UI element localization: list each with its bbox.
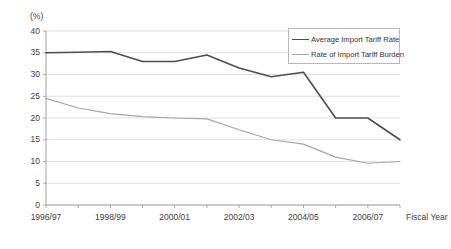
y-tick-label: 40	[18, 27, 40, 36]
legend-item-rate-of-import-tariff-burden: Rate of Import Tariff Burden	[292, 47, 404, 61]
legend-swatch-light	[292, 54, 309, 55]
legend-item-average-import-tariff-rate: Average Import Tariff Rate	[292, 32, 399, 46]
series-lines	[46, 51, 400, 163]
y-tick-label: 20	[18, 114, 40, 123]
x-tick-label: 2006/07	[344, 213, 392, 222]
y-tick-label: 30	[18, 70, 40, 79]
x-tick-label: 1998/99	[86, 213, 134, 222]
legend-swatch-dark	[292, 39, 309, 40]
y-tick-label: 5	[18, 179, 40, 188]
y-tick-label: 10	[18, 157, 40, 166]
x-axis-title: Fiscal Year	[406, 213, 448, 222]
chart-legend: Average Import Tariff Rate Rate of Impor…	[288, 28, 400, 64]
legend-label-rate-of-import-tariff-burden: Rate of Import Tariff Burden	[311, 50, 404, 59]
y-tick-label: 15	[18, 135, 40, 144]
x-tick-label: 1996/97	[22, 213, 70, 222]
legend-label-average-import-tariff-rate: Average Import Tariff Rate	[311, 35, 399, 44]
x-tick-label: 2002/03	[215, 213, 263, 222]
y-tick-label: 25	[18, 92, 40, 101]
tariff-rate-line-chart: (%) 4035302520151050 1996/971998/992000/…	[0, 0, 451, 249]
series-line-average-import-tariff-rate	[46, 51, 400, 139]
series-line-rate-of-import-tariff-burden	[46, 98, 400, 163]
x-tick-label: 2000/01	[151, 213, 199, 222]
y-tick-label: 0	[18, 201, 40, 210]
y-tick-label: 35	[18, 48, 40, 57]
x-tick-label: 2004/05	[279, 213, 327, 222]
